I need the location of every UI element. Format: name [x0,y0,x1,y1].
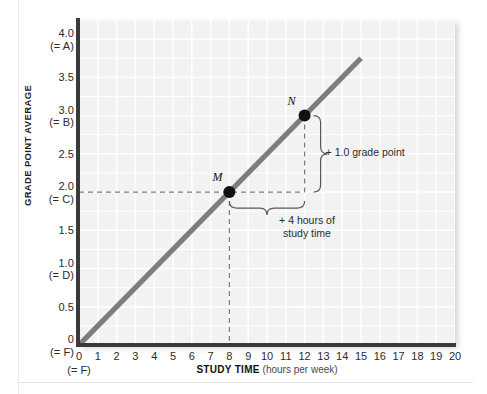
page-rule-bottom [18,382,473,383]
annotation-run-line2: study time [283,227,331,239]
y-tick-value: 0 [68,333,74,345]
annotation-run-line1: + 4 hours of [279,214,335,226]
x-axis-title-units: (hours per week) [260,364,338,375]
data-layer [79,20,455,345]
x-axis-title: STUDY TIME (hours per week) [79,364,455,375]
y-tick-value: 3.0 [58,104,74,116]
y-tick-grade: (= D) [18,269,74,282]
y-tick-value: 3.5 [58,71,74,83]
annotation-rise: + 1.0 grade point [326,146,405,159]
y-tick-4-0: 4.0(= A) [18,27,74,52]
y-tick-value: 0.5 [58,301,74,313]
y-tick-value: 4.0 [58,27,74,39]
y-tick-0: 0(= F) [18,333,74,358]
x-tick-20: 20 [443,350,467,362]
point-label-n: N [288,94,296,109]
point-label-m: M [212,170,222,185]
y-tick-value: 2.0 [58,180,74,192]
y-tick-grade: (= A) [18,40,74,53]
y-axis-title: GRADE POINT AVERAGE [22,56,33,236]
y-tick-grade: (= F) [18,346,74,359]
y-tick-1-0: 1.0(= D) [18,257,74,282]
y-tick-0-5: 0.5 [18,301,74,314]
chart-figure: 4.0(= A)3.53.0(= B)2.52.0(= C)1.51.0(= D… [0,0,487,394]
x-axis-line [76,343,456,347]
y-tick-value: 1.5 [58,224,74,236]
annotation-run: + 4 hours of study time [234,214,379,240]
y-tick-value: 2.5 [58,148,74,160]
y-tick-value: 1.0 [58,257,74,269]
plot-area [79,20,455,345]
x-axis-title-main: STUDY TIME [196,364,259,375]
y-axis-line [76,18,80,347]
